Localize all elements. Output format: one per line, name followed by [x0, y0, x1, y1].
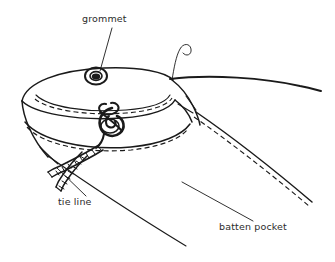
pocket-bottom-tip-fold — [40, 147, 58, 164]
tie-line-cord-edge-upper — [48, 145, 99, 172]
tie-line-knot-group — [96, 103, 124, 148]
tie-line-cord-group — [48, 145, 103, 191]
label-grommet: grommet — [82, 14, 127, 24]
label-tie-line: tie line — [58, 197, 92, 207]
grommet-icon-hole — [92, 74, 100, 80]
leech-line-hook-group — [172, 45, 191, 81]
batten-pocket-seam-solid — [196, 112, 312, 202]
tie-line-braid-rungs — [56, 146, 101, 175]
batten-pocket-seam-stitch — [194, 117, 309, 206]
grommet-leader-line — [100, 28, 112, 71]
pocket-mouth-inner-lip — [36, 95, 170, 111]
batten-pocket-leader-line — [182, 182, 253, 221]
sail-top-edge — [170, 77, 321, 91]
label-batten-pocket: batten pocket — [219, 222, 287, 232]
figure-canvas: grommet tie line batten pocket — [0, 0, 335, 262]
leech-line-hook-icon — [172, 45, 191, 81]
tie-line-end-cap-bottom — [56, 187, 61, 191]
batten-pocket-body — [22, 68, 321, 246]
tie-line-end-cap-left — [48, 172, 52, 177]
grommet-group — [85, 68, 107, 85]
callout-leaders — [57, 28, 253, 221]
